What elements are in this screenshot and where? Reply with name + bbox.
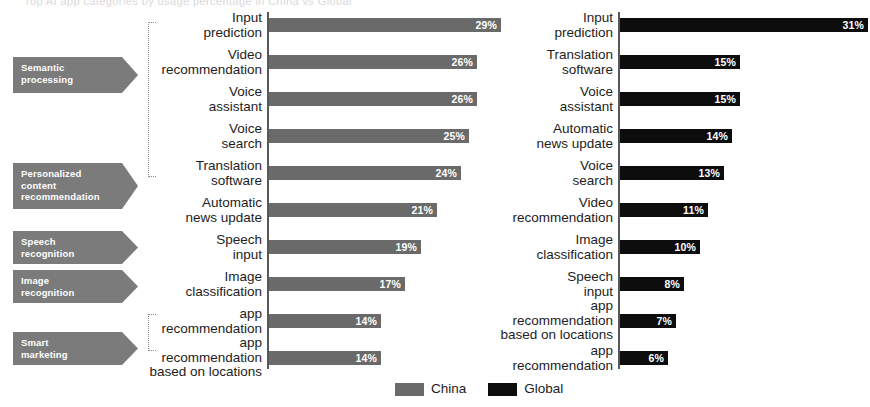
bar-value-label: 14% (706, 131, 728, 142)
bar-row: Voice search25% (269, 129, 469, 143)
bar-category-label: Speech input (463, 270, 613, 299)
bar-category-label: app recommendation (112, 307, 262, 336)
bar-value-label: 25% (443, 131, 465, 142)
bar-row: Translation software15% (620, 55, 740, 69)
bar: 6% (620, 351, 668, 365)
bar: 15% (620, 92, 740, 106)
bar-category-label: Voice assistant (112, 85, 262, 114)
bar-category-label: Input prediction (463, 11, 613, 40)
bar-category-label: Translation software (463, 48, 613, 77)
bar-row: Speech input19% (269, 240, 421, 254)
bar-category-label: Speech input (112, 233, 262, 262)
legend-item-china[interactable]: China (395, 382, 466, 396)
bar: 17% (269, 277, 405, 291)
bar-value-label: 21% (411, 205, 433, 216)
bar-category-label: app recommendation (463, 344, 613, 373)
legend-label: China (431, 382, 466, 396)
clipped-header: Top AI app categories by usage percentag… (0, 0, 870, 7)
bar-value-label: 19% (395, 242, 417, 253)
bar-value-label: 6% (648, 353, 664, 364)
bar-category-label: Voice assistant (463, 85, 613, 114)
bar-category-label: Video recommendation (463, 196, 613, 225)
bar-category-label: Input prediction (112, 11, 262, 40)
bar-category-label: Image classification (112, 270, 262, 299)
bar-row: Video recommendation11% (620, 203, 708, 217)
bar-category-label: app recommendation based on locations (112, 336, 262, 380)
bar-row: Voice assistant26% (269, 92, 477, 106)
bar-row: app recommendation based on locations7% (620, 314, 676, 328)
bar: 14% (269, 351, 381, 365)
bar-value-label: 15% (714, 57, 736, 68)
bar: 19% (269, 240, 421, 254)
bar-value-label: 10% (674, 242, 696, 253)
bar-row: app recommendation based on locations14% (269, 351, 381, 365)
bar-category-label: Voice search (463, 159, 613, 188)
bar: 15% (620, 55, 740, 69)
legend-item-global[interactable]: Global (488, 382, 563, 396)
bar-row: Image classification17% (269, 277, 405, 291)
bar-category-label: Automatic news update (463, 122, 613, 151)
clipped-header-text: Top AI app categories by usage percentag… (24, 0, 352, 7)
bar-value-label: 7% (656, 316, 672, 327)
bar-row: Input prediction31% (620, 18, 868, 32)
bar-value-label: 14% (355, 353, 377, 364)
bar-value-label: 24% (435, 168, 457, 179)
bar-value-label: 17% (379, 279, 401, 290)
bar: 8% (620, 277, 684, 291)
bar: 21% (269, 203, 437, 217)
bar: 31% (620, 18, 868, 32)
bar: 26% (269, 55, 477, 69)
bar-row: Automatic news update14% (620, 129, 732, 143)
bar: 13% (620, 166, 724, 180)
bar-row: app recommendation6% (620, 351, 668, 365)
bar-category-label: Video recommendation (112, 48, 262, 77)
bar-category-label: app recommendation based on locations (463, 299, 613, 343)
bar: 26% (269, 92, 477, 106)
bar-row: Speech input8% (620, 277, 684, 291)
bar-row: Video recommendation26% (269, 55, 477, 69)
bar: 25% (269, 129, 469, 143)
bar-value-label: 31% (842, 20, 864, 31)
bar: 11% (620, 203, 708, 217)
chart-legend: ChinaGlobal (395, 382, 563, 396)
bar: 24% (269, 166, 461, 180)
legend-label: Global (524, 382, 563, 396)
bar-row: Voice search13% (620, 166, 724, 180)
bar-row: app recommendation14% (269, 314, 381, 328)
legend-swatch (395, 383, 424, 396)
bar-category-label: Automatic news update (112, 196, 262, 225)
bar-category-label: Image classification (463, 233, 613, 262)
bar-row: Automatic news update21% (269, 203, 437, 217)
bar: 14% (620, 129, 732, 143)
bar-category-label: Translation software (112, 159, 262, 188)
bar-row: Translation software24% (269, 166, 461, 180)
bar: 14% (269, 314, 381, 328)
chart-page: Top AI app categories by usage percentag… (0, 0, 870, 407)
bar-value-label: 13% (698, 168, 720, 179)
bar-value-label: 15% (714, 94, 736, 105)
bar-row: Image classification10% (620, 240, 700, 254)
bar-value-label: 11% (683, 205, 704, 216)
bar-value-label: 8% (664, 279, 680, 290)
legend-swatch (488, 383, 517, 396)
bar-value-label: 14% (355, 316, 377, 327)
bar: 7% (620, 314, 676, 328)
bar: 10% (620, 240, 700, 254)
bar-row: Voice assistant15% (620, 92, 740, 106)
bar-category-label: Voice search (112, 122, 262, 151)
